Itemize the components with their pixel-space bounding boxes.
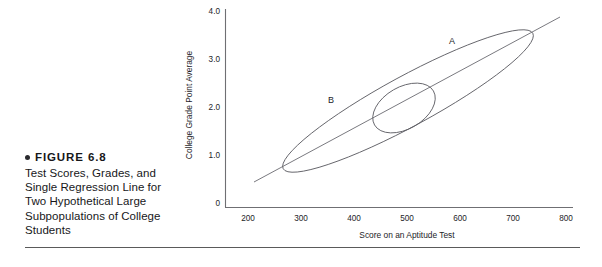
group-a-label: A (449, 36, 455, 46)
scatter-ellipse-chart: College Grade Point Average 4.0 3.0 2.0 … (182, 0, 602, 240)
large-population-ellipse (271, 11, 544, 190)
x-tick-label-700: 700 (506, 214, 520, 223)
caption-line-5: Students (25, 223, 185, 237)
y-tick-label-0: 0 (215, 199, 220, 208)
bullet-dot-icon (25, 155, 30, 160)
figure-caption: FIGURE 6.8 Test Scores, Grades, and Sing… (25, 150, 185, 237)
y-axis-title: College Grade Point Average (184, 50, 194, 159)
figure-caption-text: Test Scores, Grades, and Single Regressi… (25, 166, 185, 237)
x-tick-label-300: 300 (294, 214, 308, 223)
group-b-label: B (328, 95, 334, 105)
y-tick-label-3: 3.0 (209, 55, 221, 64)
x-tick-label-600: 600 (453, 214, 467, 223)
x-tick-label-500: 500 (400, 214, 414, 223)
caption-line-3: Two Hypothetical Large (25, 194, 185, 208)
figure-page: FIGURE 6.8 Test Scores, Grades, and Sing… (0, 0, 602, 267)
x-tick-label-800: 800 (559, 214, 573, 223)
regression-line (254, 17, 560, 182)
chart-canvas: College Grade Point Average 4.0 3.0 2.0 … (182, 0, 602, 240)
x-tick-label-400: 400 (347, 214, 361, 223)
x-axis-title: Score on an Aptitude Test (359, 230, 455, 240)
figure-number-heading: FIGURE 6.8 (25, 150, 185, 164)
small-population-ellipse (364, 73, 444, 143)
caption-line-2: Single Regression Line for (25, 180, 185, 194)
x-tick-label-200: 200 (241, 214, 255, 223)
y-tick-label-1: 1.0 (209, 151, 221, 160)
caption-line-4: Subpopulations of College (25, 209, 185, 223)
caption-line-1: Test Scores, Grades, and (25, 166, 185, 180)
y-tick-label-2: 2.0 (209, 103, 221, 112)
page-divider-rule (25, 247, 580, 248)
figure-number-text: FIGURE 6.8 (35, 151, 107, 163)
y-tick-label-4: 4.0 (209, 7, 221, 16)
